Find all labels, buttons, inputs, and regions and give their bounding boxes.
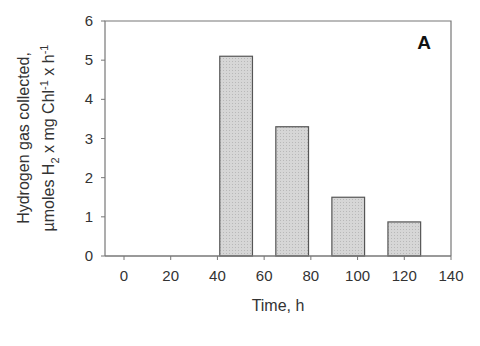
bar-72h xyxy=(276,127,309,256)
y-axis-title-line1: Hydrogen gas collected, xyxy=(14,18,34,258)
y-tick-label: 0 xyxy=(85,247,93,264)
y-tick-label: 5 xyxy=(85,51,93,68)
x-tick-label: 20 xyxy=(162,267,179,284)
y-tick-label: 1 xyxy=(85,208,93,225)
bar-96h xyxy=(332,197,365,256)
y-axis: 0123456 xyxy=(85,12,105,264)
bars-group xyxy=(220,56,421,256)
x-tick-label: 120 xyxy=(392,267,417,284)
x-axis: 020406080100120140 xyxy=(120,256,464,284)
x-axis-title: Time, h xyxy=(252,297,305,314)
y-tick-label: 4 xyxy=(85,90,93,107)
bar-48h xyxy=(220,56,253,256)
y-tick-label: 3 xyxy=(85,130,93,147)
y-axis-title: Hydrogen gas collected, µmoles H2 x mg C… xyxy=(14,18,74,258)
bar-120h xyxy=(388,222,421,256)
y-tick-label: 2 xyxy=(85,169,93,186)
x-tick-label: 0 xyxy=(120,267,128,284)
x-tick-label: 60 xyxy=(256,267,273,284)
y-tick-label: 6 xyxy=(85,12,93,29)
y-axis-title-line2: µmoles H2 x mg Chl-1 x h-1 xyxy=(34,18,65,258)
x-tick-label: 40 xyxy=(209,267,226,284)
x-tick-label: 140 xyxy=(438,267,463,284)
x-tick-label: 100 xyxy=(345,267,370,284)
x-tick-label: 80 xyxy=(303,267,320,284)
panel-label: A xyxy=(417,32,431,53)
